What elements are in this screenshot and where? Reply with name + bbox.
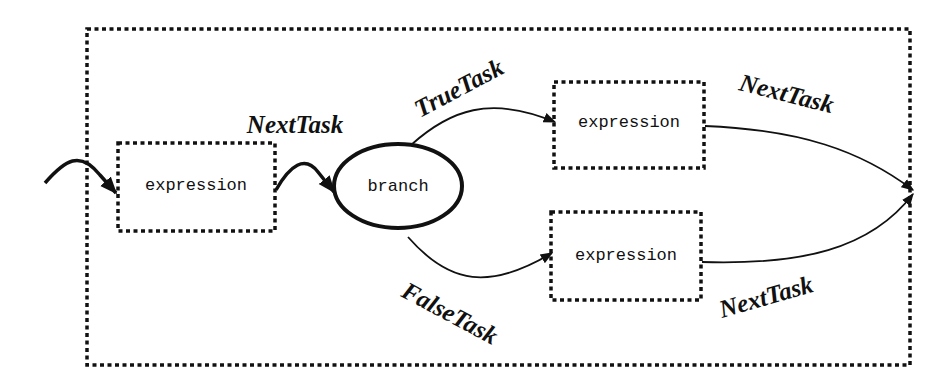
expression-node-main[interactable]: expression — [118, 143, 275, 231]
next-task-false-label: NextTask — [715, 270, 816, 323]
branch-label: branch — [367, 177, 428, 196]
incoming-edge — [45, 160, 116, 193]
false-task-label: FalseTask — [397, 276, 503, 350]
next-task-main-label: NextTask — [246, 111, 344, 138]
expression-node-true[interactable]: expression — [554, 82, 704, 168]
next-task-false-edge — [702, 194, 913, 262]
next-task-main-edge — [276, 164, 334, 192]
branch-node[interactable]: branch — [334, 144, 462, 228]
next-task-true-label: NextTask — [736, 68, 837, 118]
false-task-edge — [408, 237, 552, 277]
expression-node-false[interactable]: expression — [551, 212, 701, 300]
expression-true-label: expression — [578, 113, 680, 132]
next-task-true-edge — [705, 126, 913, 190]
control-flow-diagram: expression NextTask branch TrueTask Fals… — [0, 0, 951, 385]
expression-main-label: expression — [145, 176, 247, 195]
true-task-label: TrueTask — [410, 53, 509, 123]
expression-false-label: expression — [575, 246, 677, 265]
